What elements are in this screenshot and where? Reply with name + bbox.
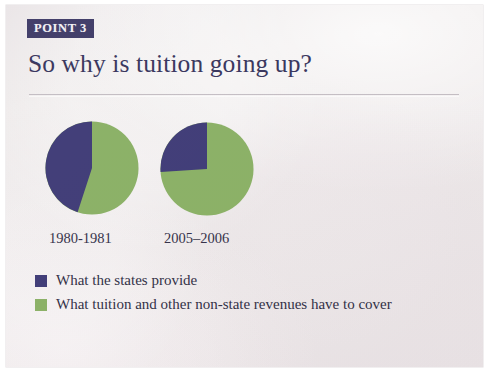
pie-chart-1-label: 1980-1981	[49, 230, 112, 247]
legend-label-tuition: What tuition and other non-state revenue…	[56, 297, 392, 312]
point-number-badge: POINT 3	[27, 19, 94, 38]
pie-chart-2005-2006-svg	[160, 122, 254, 216]
legend-label-states: What the states provide	[56, 273, 197, 288]
legend-item-states: What the states provide	[35, 273, 392, 288]
legend-item-tuition: What tuition and other non-state revenue…	[35, 297, 392, 312]
legend-swatch-navy	[35, 275, 47, 287]
scanned-page-sheet: POINT 3 So why is tuition going up? 1980…	[6, 5, 483, 367]
title-divider-highlight	[29, 96, 459, 97]
pie-2-slice-navy	[160, 122, 207, 171]
legend-swatch-green	[35, 299, 47, 311]
page-title: So why is tuition going up?	[28, 49, 312, 79]
pie-chart-1980-1981-svg	[45, 121, 139, 215]
title-divider	[29, 94, 459, 95]
chart-legend: What the states provide What tuition and…	[35, 273, 392, 321]
pie-chart-1980-1981	[45, 121, 139, 215]
pie-chart-2-label: 2005–2006	[164, 230, 229, 247]
pie-chart-2005-2006	[160, 122, 254, 216]
